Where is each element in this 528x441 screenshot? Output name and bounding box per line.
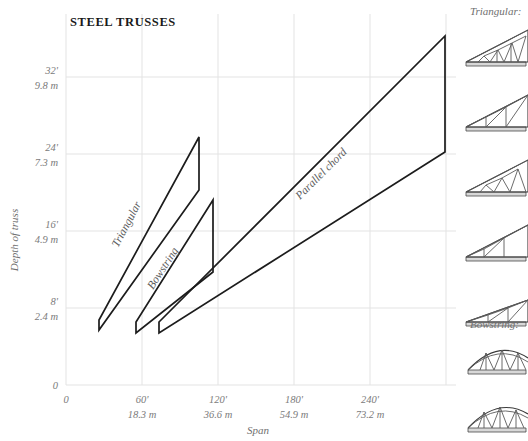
x-tick-120-m: 36.6 m [203,409,233,420]
truss-triangular-howe-icon [466,95,528,131]
y-tick-16-ft: 16' [45,219,59,230]
y-tick-8-ft: 8' [51,296,59,307]
y-tick-0-ft: 0 [53,380,59,391]
truss-triangular-fink-icon [466,160,528,196]
x-axis-ticks: 0 60' 18.3 m 120' 36.6 m 180' 54.9 m 240… [63,394,384,420]
x-tick-240-ft: 240' [361,394,380,405]
x-tick-180-ft: 180' [285,394,304,405]
truss-bowstring-a-icon [468,350,528,374]
x-tick-240-m: 73.2 m [356,409,385,420]
y-tick-32-m: 9.8 m [35,80,59,91]
y-tick-8-m: 2.4 m [35,311,59,322]
x-axis-title: Span [247,424,270,436]
sidebar-group-label-bowstring: Bowstring: [470,318,519,330]
steel-trusses-chart: STEEL TRUSSES Triangular Bowstring Paral… [0,0,528,441]
truss-triangular-pratt-icon [466,30,528,66]
truss-triangular-scissors-icon [466,225,528,261]
x-tick-60-ft: 60' [136,394,150,405]
chart-page: STEEL TRUSSES Triangular Bowstring Paral… [0,0,528,441]
y-tick-16-m: 4.9 m [35,234,59,245]
y-tick-24-m: 7.3 m [35,157,59,168]
x-tick-120-ft: 120' [209,394,228,405]
y-axis-ticks: 0 8' 2.4 m 16' 4.9 m 24' 7.3 m 32' 9.8 m [35,65,59,391]
chart-title: STEEL TRUSSES [70,15,176,29]
sidebar-group-label-triangular: Triangular: [470,5,521,17]
x-tick-180-m: 54.9 m [280,409,309,420]
y-tick-24-ft: 24' [45,142,59,153]
y-axis-title: Depth of truss [8,209,20,272]
plot-background [66,14,456,385]
x-tick-0-ft: 0 [63,394,69,405]
truss-bowstring-b-icon [468,407,528,432]
y-tick-32-ft: 32' [44,65,59,76]
x-tick-60-m: 18.3 m [128,409,157,420]
